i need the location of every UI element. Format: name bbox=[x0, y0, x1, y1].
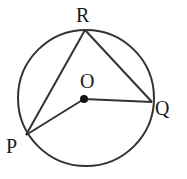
segment-rp bbox=[26, 30, 85, 135]
label-r: R bbox=[76, 4, 90, 26]
segment-op bbox=[26, 99, 84, 135]
segment-oq bbox=[84, 99, 152, 102]
circle-diagram: R O Q P bbox=[0, 0, 187, 179]
center-point-o bbox=[80, 95, 88, 103]
label-o: O bbox=[80, 70, 94, 92]
label-p: P bbox=[6, 135, 17, 157]
segment-rq bbox=[85, 30, 152, 102]
label-q: Q bbox=[155, 97, 170, 119]
